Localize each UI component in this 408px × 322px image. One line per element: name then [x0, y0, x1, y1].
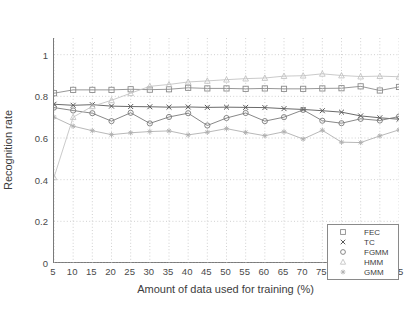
- legend-item-fgmm[interactable]: FGMM: [328, 247, 398, 257]
- triangle-marker-icon-glyph: [337, 257, 349, 267]
- legend-label: FGMM: [354, 248, 394, 257]
- y-axis-title: Recognition rate: [2, 110, 14, 190]
- x-tick-label: 60: [259, 266, 270, 277]
- legend-label: HMM: [354, 258, 394, 267]
- x-tick-label: 75: [316, 266, 327, 277]
- x-tick-label: 55: [239, 266, 250, 277]
- x-tick-label: 40: [182, 266, 193, 277]
- x-tick-label: 20: [105, 266, 116, 277]
- x-tick-label: 45: [201, 266, 212, 277]
- x-tick-label: 25: [124, 266, 135, 277]
- triangle-marker-icon: [340, 259, 345, 264]
- x-tick-label: 50: [220, 266, 231, 277]
- square-marker-icon-glyph: [337, 227, 349, 237]
- legend-label: GMM: [354, 268, 394, 277]
- chart-figure: 00.20.40.60.81 5101520253035404550556065…: [0, 0, 408, 322]
- x-marker-icon: [332, 237, 354, 247]
- star-marker-icon-glyph: [337, 267, 349, 277]
- x-axis-title: Amount of data used for training (%): [53, 283, 398, 295]
- x-tick-label: 15: [86, 266, 97, 277]
- legend-label: TC: [354, 238, 394, 247]
- data-point-marker: [341, 240, 346, 245]
- data-point-marker: [341, 250, 346, 255]
- legend-label: FEC: [354, 228, 394, 237]
- triangle-marker-icon: [332, 257, 354, 267]
- circle-marker-icon: [341, 250, 346, 255]
- legend-item-fec[interactable]: FEC: [328, 227, 398, 237]
- legend-item-tc[interactable]: TC: [328, 237, 398, 247]
- x-tick-label: 65: [278, 266, 289, 277]
- x-tick-label: 5: [50, 266, 55, 277]
- legend-item-gmm[interactable]: GMM: [328, 267, 398, 277]
- x-tick-label: 30: [144, 266, 155, 277]
- legend-item-hmm[interactable]: HMM: [328, 257, 398, 267]
- circle-marker-icon-glyph: [337, 247, 349, 257]
- data-point-marker: [340, 259, 345, 264]
- chart-legend: FECTCFGMMHMMGMM: [327, 224, 399, 280]
- data-point-marker: [341, 230, 346, 235]
- square-marker-icon: [341, 230, 346, 235]
- data-point-marker: [341, 270, 346, 275]
- x-tick-label: 10: [67, 266, 78, 277]
- square-marker-icon: [332, 227, 354, 237]
- circle-marker-icon: [332, 247, 354, 257]
- x-tick-label: 35: [163, 266, 174, 277]
- star-marker-icon: [332, 267, 354, 277]
- x-tick-label: 70: [297, 266, 308, 277]
- x-marker-icon-glyph: [337, 237, 349, 247]
